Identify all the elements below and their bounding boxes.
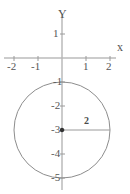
y-tick-label-neg2: -2: [51, 100, 60, 111]
plot-canvas: [0, 0, 130, 194]
radius-value-label: 2: [84, 116, 89, 126]
y-tick-label-neg3: -3: [51, 124, 60, 135]
center-point-dot: [60, 128, 64, 132]
y-axis-label: Y: [58, 8, 67, 20]
y-tick-label-neg1: -1: [53, 76, 62, 87]
x-axis-label: x: [117, 41, 123, 53]
y-tick-label-neg4: -4: [51, 148, 60, 159]
x-tick-label-neg2: -2: [7, 61, 16, 72]
x-tick-label-2: 2: [106, 61, 112, 72]
x-tick-label-neg1: -1: [31, 61, 40, 72]
x-tick-label-1: 1: [83, 61, 89, 72]
coordinate-plane-figure: Y x 1 -1 -2 -3 -4 -5 -2 -1 1 2 2: [0, 0, 130, 194]
y-tick-label-1: 1: [53, 28, 59, 39]
y-tick-label-neg5: -5: [51, 172, 60, 183]
